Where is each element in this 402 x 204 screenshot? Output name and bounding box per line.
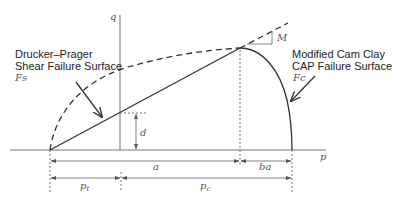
drucker-prager-symbol: Fs [14, 72, 27, 83]
p-axis-label: p [320, 151, 327, 162]
yield-surface-diagram: p q M d a ba pt pc Drucker–Prager Shear … [0, 0, 402, 204]
pc-label: pc [200, 180, 210, 193]
drucker-prager-title: Drucker–Prager [15, 48, 93, 60]
cam-clay-symbol: Fc [292, 72, 306, 83]
cam-clay-cap-curve [240, 48, 292, 150]
drucker-prager-subtitle: Shear Failure Surface [15, 60, 122, 72]
pt-label: pt [80, 180, 89, 193]
a-label: a [153, 161, 159, 172]
drucker-prager-pointer-arrow [76, 82, 102, 117]
q-axis-label: q [110, 11, 116, 22]
cohesion-label: d [140, 127, 146, 138]
slope-label: M [276, 32, 288, 43]
cam-clay-title: Modified Cam Clay [292, 48, 385, 60]
cam-clay-subtitle: CAP Failure Surface [292, 60, 392, 72]
ba-label: ba [259, 161, 271, 172]
